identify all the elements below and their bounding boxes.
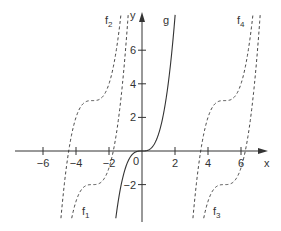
- y-tick-label: 6: [130, 44, 136, 56]
- curve-f3: [204, 15, 260, 218]
- curve-label-f2: f2: [105, 14, 113, 29]
- y-axis-arrow-icon: [139, 12, 145, 22]
- curve-label-g: g: [163, 14, 169, 26]
- curve-label-f3: f3: [213, 205, 221, 220]
- x-tick-label: −4: [70, 157, 83, 169]
- axes: x y 0 −6−4−2246 −2246: [15, 9, 270, 222]
- y-ticks: −2246: [123, 44, 146, 190]
- x-tick-label: 4: [205, 157, 211, 169]
- y-tick-label: 4: [130, 78, 136, 90]
- cubic-function-chart: x y 0 −6−4−2246 −2246 gf1f2f3f4: [0, 0, 281, 231]
- x-tick-label: −2: [103, 157, 116, 169]
- x-tick-label: 2: [172, 157, 178, 169]
- x-axis-arrow-icon: [258, 148, 268, 154]
- curve-f4: [193, 15, 253, 218]
- origin-label: 0: [133, 155, 139, 167]
- curve-f2: [61, 15, 121, 218]
- curves: [61, 15, 260, 218]
- curve-label-f1: f1: [82, 205, 90, 220]
- chart-svg: x y 0 −6−4−2246 −2246 gf1f2f3f4: [0, 0, 281, 231]
- y-axis-label: y: [130, 9, 136, 21]
- x-axis-label: x: [264, 157, 270, 169]
- curve-labels: gf1f2f3f4: [82, 14, 245, 220]
- curve-f1: [72, 15, 128, 218]
- x-tick-label: −6: [37, 157, 50, 169]
- curve-label-f4: f4: [237, 14, 245, 29]
- y-tick-label: −2: [123, 179, 136, 191]
- y-tick-label: 2: [130, 111, 136, 123]
